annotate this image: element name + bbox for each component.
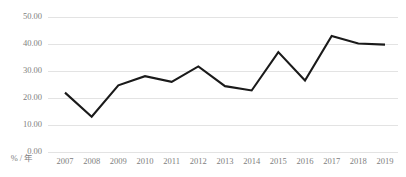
- chart-canvas: 50.0040.0030.0020.0010.000.00 2007200820…: [0, 0, 406, 177]
- y-tick-label: 30.00: [23, 65, 42, 75]
- series-line: [65, 36, 385, 117]
- line-chart: 50.0040.0030.0020.0010.000.00 2007200820…: [0, 0, 406, 177]
- y-axis-tick-labels: 50.0040.0030.0020.0010.000.00: [23, 11, 42, 156]
- y-tick-label: 10.00: [23, 119, 42, 129]
- x-tick-label: 2014: [243, 156, 261, 166]
- plot-area: 50.0040.0030.0020.0010.000.00 2007200820…: [0, 0, 406, 177]
- x-tick-label: 2007: [57, 156, 74, 166]
- x-axis-tick-labels: 2007200820092010201120122013201420152016…: [57, 156, 394, 166]
- x-tick-label: 2018: [350, 156, 367, 166]
- x-tick-label: 2009: [110, 156, 127, 166]
- x-tick-label: 2012: [190, 156, 207, 166]
- data-series-group: [65, 36, 385, 117]
- y-tick-label: 20.00: [23, 92, 42, 102]
- y-tick-label: 50.00: [23, 11, 42, 21]
- x-tick-label: 2013: [217, 156, 234, 166]
- x-tick-label: 2016: [297, 156, 314, 166]
- x-tick-label: 2011: [163, 156, 180, 166]
- x-tick-label: 2019: [377, 156, 394, 166]
- x-tick-label: 2017: [323, 156, 340, 166]
- x-tick-label: 2015: [270, 156, 287, 166]
- axis-unit-label: % / 年: [11, 153, 34, 163]
- x-tick-label: 2010: [137, 156, 154, 166]
- y-tick-label: 40.00: [23, 38, 42, 48]
- x-tick-label: 2008: [83, 156, 100, 166]
